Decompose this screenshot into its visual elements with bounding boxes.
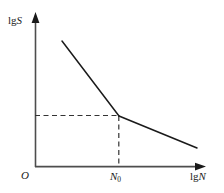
curve-steep-segment xyxy=(62,41,119,116)
origin-label: O xyxy=(21,170,29,181)
curve-shallow-segment xyxy=(119,116,197,148)
x-tick-label-n0: N0 xyxy=(110,171,121,182)
y-axis-arrow-icon xyxy=(32,12,40,23)
x-axis-label-lg: lg xyxy=(190,170,199,182)
y-axis-label-lg: lg xyxy=(8,14,17,26)
x-axis-label-variable: N xyxy=(199,170,206,182)
curve-figure: lgS O N0 lgN xyxy=(0,0,224,193)
y-axis-label: lgS xyxy=(8,15,22,26)
plot-canvas xyxy=(0,0,224,193)
y-axis-label-variable: S xyxy=(17,14,23,26)
x-tick-subscript: 0 xyxy=(117,175,121,184)
x-axis-label: lgN xyxy=(190,171,206,182)
